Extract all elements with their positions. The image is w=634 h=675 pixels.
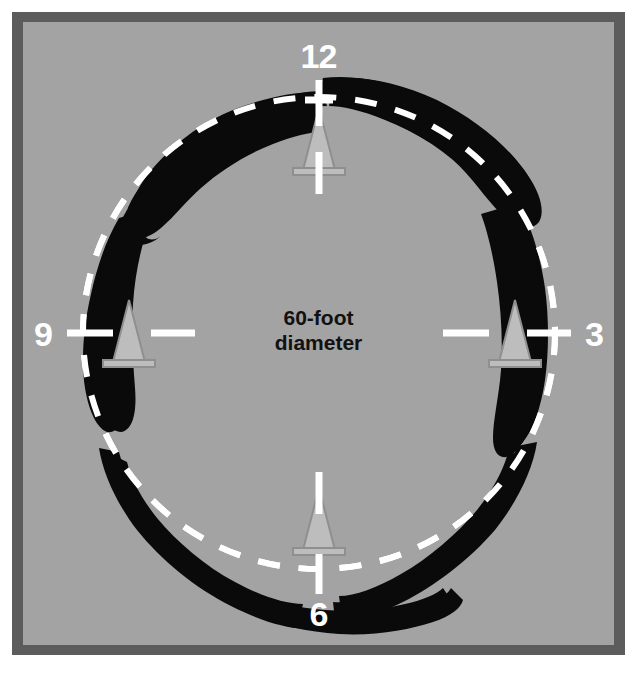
hour-label-12-text: 12 bbox=[301, 37, 337, 75]
center-caption: 60-foot diameter bbox=[23, 305, 614, 355]
caption-line-2: diameter bbox=[23, 330, 614, 355]
hour-label-12: 12 bbox=[23, 39, 614, 73]
diagram-field: 12 3 6 9 60-foot diameter bbox=[23, 22, 614, 645]
diagram-frame: 12 3 6 9 60-foot diameter bbox=[12, 12, 625, 655]
skid-mark-lower-right bbox=[339, 448, 527, 612]
skid-mark-upper-left bbox=[126, 92, 321, 239]
hour-label-6-text: 6 bbox=[310, 595, 328, 633]
skid-mark-lower-left bbox=[107, 452, 303, 620]
diagram-page: 12 3 6 9 60-foot diameter bbox=[0, 0, 634, 675]
skid-mark-upper-right-body bbox=[317, 77, 542, 228]
hour-label-6: 6 bbox=[23, 597, 614, 631]
caption-line-1: 60-foot bbox=[23, 305, 614, 330]
